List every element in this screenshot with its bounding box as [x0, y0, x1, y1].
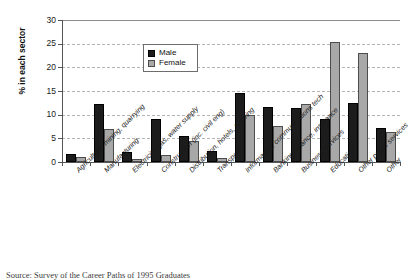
- legend-label-female: Female: [159, 58, 186, 68]
- legend-swatch-male-icon: [148, 50, 155, 57]
- x-axis-label: Other public services: [356, 121, 410, 175]
- figure-caption: Source: Survey of the Career Paths of 19…: [6, 270, 414, 280]
- x-axis-label: Transport: [215, 147, 243, 175]
- legend-swatch-female-icon: [148, 60, 155, 67]
- legend-item-female: Female: [148, 58, 193, 68]
- legend-label-male: Male: [159, 48, 176, 58]
- x-axis-label: Education: [328, 145, 357, 174]
- chart-legend: Male Female: [143, 44, 198, 72]
- legend-item-male: Male: [148, 48, 193, 58]
- x-axis-label: Other: [384, 155, 403, 174]
